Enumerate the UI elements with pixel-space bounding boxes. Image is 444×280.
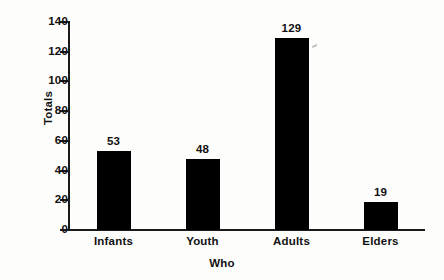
bar xyxy=(364,202,398,230)
bar-value-label: 48 xyxy=(173,144,233,156)
y-axis-tick-label: 20 xyxy=(16,194,68,206)
bar-value-label: 19 xyxy=(351,187,411,199)
y-axis-tick-label: 100 xyxy=(16,75,68,87)
y-axis-tick-label: 140 xyxy=(16,16,68,28)
bar xyxy=(275,38,309,230)
y-axis-line xyxy=(68,21,70,231)
y-axis-tick-label: 120 xyxy=(16,46,68,58)
y-axis-tick-label: 60 xyxy=(16,135,68,147)
bar xyxy=(186,159,220,230)
x-axis-title: Who xyxy=(0,257,444,269)
x-axis-tick-label: Adults xyxy=(247,236,337,248)
bar-chart: Totals 020406080100120140 534812919 Infa… xyxy=(0,0,444,280)
bar-value-label: 129 xyxy=(262,23,322,35)
bar xyxy=(97,151,131,230)
y-axis-tick-label: 0 xyxy=(16,224,68,236)
y-axis-tick-label: 40 xyxy=(16,165,68,177)
x-axis-tick-label: Youth xyxy=(158,236,248,248)
bar-value-label: 53 xyxy=(84,136,144,148)
y-axis-tick-label: 80 xyxy=(16,105,68,117)
x-axis-tick-label: Elders xyxy=(336,236,426,248)
scan-speckle xyxy=(312,44,317,48)
x-axis-tick-label: Infants xyxy=(69,236,159,248)
